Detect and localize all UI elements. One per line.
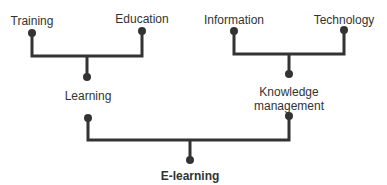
node-learning: Learning <box>65 89 112 103</box>
node-dot-education <box>138 27 146 35</box>
node-e-learning: E-learning <box>161 169 220 183</box>
node-information: Information <box>204 13 264 27</box>
node-dot-training <box>28 29 36 37</box>
node-education: Education <box>115 12 168 26</box>
connector-lines <box>0 0 387 185</box>
node-technology: Technology <box>314 13 375 27</box>
node-km-line1: Knowledge <box>254 85 324 99</box>
node-km-line2: management <box>254 99 324 113</box>
node-training: Training <box>11 14 54 28</box>
node-knowledge-management: Knowledge management <box>254 85 324 113</box>
